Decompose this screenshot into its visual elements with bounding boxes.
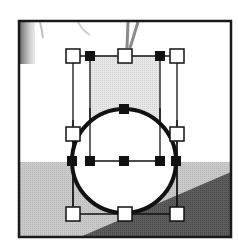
handle-bottom-center[interactable] [118, 207, 132, 221]
anchor-top-inner-left[interactable] [85, 51, 95, 61]
anchor-top-inner-right[interactable] [155, 51, 165, 61]
anchor-circle-right[interactable] [171, 156, 181, 166]
photo-left-shadow [20, 22, 35, 64]
selection-diagram [0, 0, 238, 240]
handle-top-center[interactable] [118, 49, 132, 63]
handle-top-left[interactable] [66, 49, 80, 63]
anchor-inner-right[interactable] [155, 156, 165, 166]
anchor-inner-left[interactable] [85, 156, 95, 166]
anchor-circle-top[interactable] [119, 104, 129, 114]
handle-bottom-left[interactable] [66, 207, 80, 221]
anchor-circle-left[interactable] [67, 156, 77, 166]
handle-bottom-right[interactable] [170, 207, 184, 221]
handle-middle-right[interactable] [170, 127, 184, 141]
handle-middle-left[interactable] [66, 127, 80, 141]
handle-top-right[interactable] [170, 49, 184, 63]
anchor-center[interactable] [119, 156, 129, 166]
